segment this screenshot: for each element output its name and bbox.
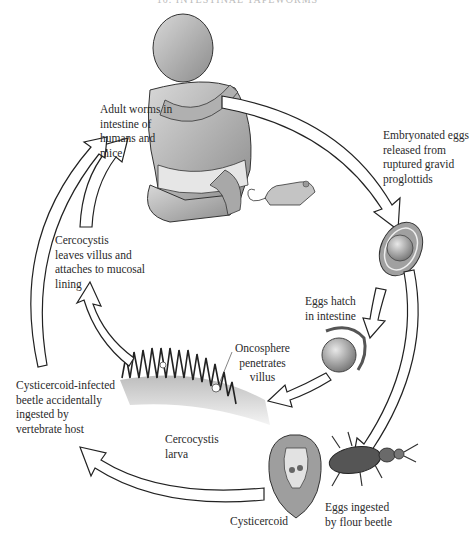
label-oncosphere: Oncosphere penetrates villus [235,341,290,385]
arrow-egg-to-beetle [352,270,418,465]
label-cysticercoid: Cysticercoid [230,514,288,529]
arrow-egg-to-hatch [363,288,386,338]
label-embryonated-eggs: Embryonated eggs released from ruptured … [383,128,469,186]
hatching-egg-figure [322,328,365,372]
mouse-figure [248,181,315,205]
label-eggs-ingested: Eggs ingested by flour beetle [325,500,392,529]
label-cercocystis-larva: Cercocystis larva [165,432,219,461]
embryonated-egg-figure [371,215,431,283]
label-beetle-ingested: Cysticercoid-infected beetle accidentall… [16,378,115,436]
label-eggs-hatch: Eggs hatch in intestine [305,294,356,323]
label-adult-worms: Adult worms in intestine of humans and m… [100,102,172,160]
cysticercoid-figure [269,435,321,518]
label-cercocystis-leaves: Cercocystis leaves villus and attaches t… [55,233,145,291]
arrow-villi-to-mucosa [77,282,134,366]
